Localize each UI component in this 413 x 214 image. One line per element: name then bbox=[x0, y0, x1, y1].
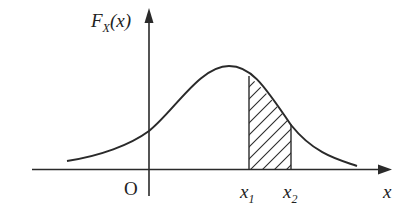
x2-label: x2 bbox=[283, 182, 297, 201]
x-axis-arrow-icon bbox=[378, 165, 392, 175]
y-label-arg: (x) bbox=[110, 10, 131, 31]
y-axis-label: FX(x) bbox=[91, 11, 131, 30]
x1-label: x1 bbox=[240, 182, 254, 201]
y-axis-arrow-icon bbox=[145, 8, 154, 23]
diagram: FX(x) O x1 x2 x bbox=[0, 0, 413, 214]
shaded-region bbox=[220, 0, 330, 214]
x1-sub: 1 bbox=[248, 192, 254, 206]
y-label-sub: X bbox=[103, 21, 110, 35]
y-label-main: F bbox=[91, 10, 103, 31]
x2-sub: 2 bbox=[291, 192, 297, 206]
x-axis-label: x bbox=[383, 182, 391, 201]
density-plot bbox=[0, 0, 413, 214]
origin-label: O bbox=[124, 178, 138, 200]
density-curve bbox=[67, 66, 357, 166]
